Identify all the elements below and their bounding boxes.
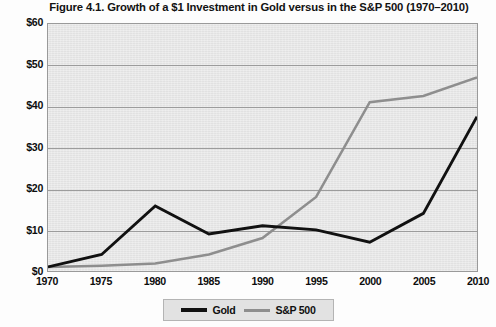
y-tick-label: $60 (2, 16, 43, 28)
x-tick-label: 1980 (130, 275, 180, 287)
chart-legend: GoldS&P 500 (163, 299, 334, 321)
x-tick-label: 2010 (453, 275, 496, 287)
x-tick-label: 1985 (184, 275, 234, 287)
legend-item-gold[interactable]: Gold (181, 304, 235, 316)
series-line-gold (48, 117, 477, 267)
chart-title: Figure 4.1. Growth of a $1 Investment in… (0, 1, 496, 13)
series-lines (48, 24, 477, 271)
y-tick-label: $10 (2, 224, 43, 236)
plot-area (47, 23, 478, 272)
legend-label: S&P 500 (275, 304, 315, 316)
x-tick-label: 2005 (399, 275, 449, 287)
legend-swatch-icon (244, 309, 270, 312)
y-tick-label: $30 (2, 141, 43, 153)
series-line-s-p-500 (48, 78, 477, 267)
x-tick-label: 2000 (345, 275, 395, 287)
x-tick-label: 1995 (291, 275, 341, 287)
y-tick-label: $50 (2, 58, 43, 70)
figure-container: Figure 4.1. Growth of a $1 Investment in… (0, 0, 496, 327)
legend-label: Gold (212, 304, 235, 316)
y-tick-label: $40 (2, 99, 43, 111)
y-tick-label: $20 (2, 182, 43, 194)
legend-swatch-icon (181, 308, 207, 311)
legend-item-sp[interactable]: S&P 500 (244, 304, 315, 316)
x-tick-label: 1990 (238, 275, 288, 287)
x-tick-label: 1970 (22, 275, 72, 287)
x-axis: 197019751980198519901995200020052010 (47, 275, 478, 295)
x-tick-label: 1975 (76, 275, 126, 287)
